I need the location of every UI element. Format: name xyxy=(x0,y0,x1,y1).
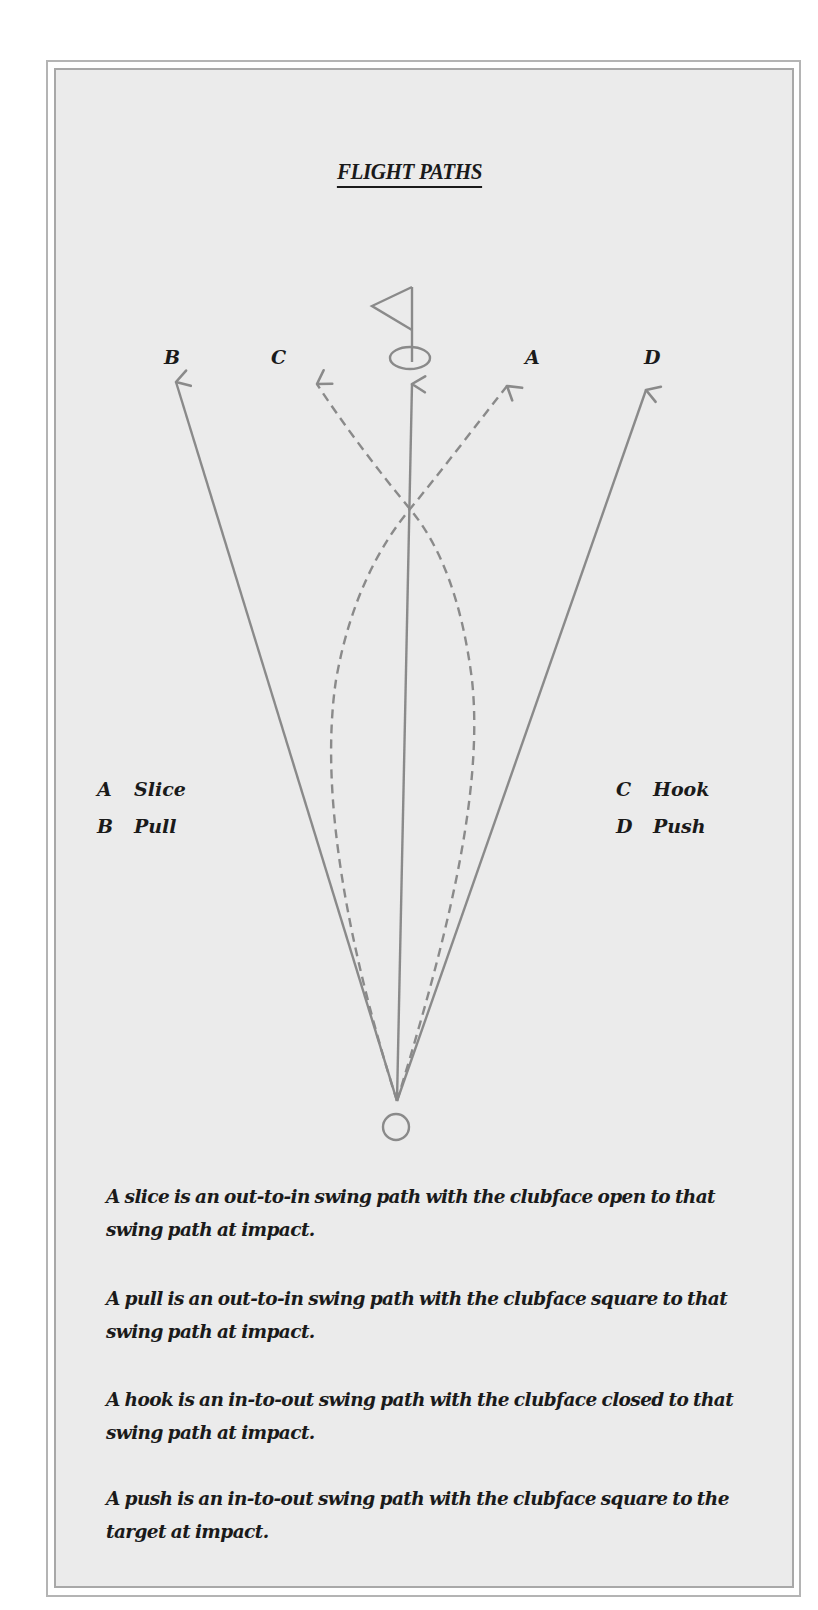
legend-label: Slice xyxy=(134,778,186,800)
description-push: A push is an in-to-out swing path with t… xyxy=(106,1482,746,1548)
path-label-b: B xyxy=(164,348,180,367)
legend-key: A xyxy=(97,780,134,799)
description-line: swing path at impact. xyxy=(106,1315,746,1348)
pull-path-b xyxy=(176,382,397,1101)
flight-paths-diagram xyxy=(0,0,818,1610)
legend-item-hook: CHook xyxy=(616,780,709,799)
push-path-d xyxy=(397,390,646,1101)
description-slice: A slice is an out-to-in swing path with … xyxy=(106,1180,746,1246)
legend-label: Hook xyxy=(653,778,709,800)
path-label-a: A xyxy=(525,348,540,367)
legend-item-pull: BPull xyxy=(97,817,177,836)
description-line: A slice is an out-to-in swing path with … xyxy=(106,1180,746,1213)
description-line: swing path at impact. xyxy=(106,1416,746,1449)
description-line: A pull is an out-to-in swing path with t… xyxy=(106,1282,746,1315)
description-line: swing path at impact. xyxy=(106,1213,746,1246)
flag-icon xyxy=(372,287,412,362)
ball-icon xyxy=(383,1114,409,1140)
description-line: A push is an in-to-out swing path with t… xyxy=(106,1482,746,1515)
legend-label: Push xyxy=(653,815,706,837)
description-line: A hook is an in-to-out swing path with t… xyxy=(106,1383,746,1416)
legend-item-push: DPush xyxy=(616,817,706,836)
hook-path-c xyxy=(317,384,474,1101)
path-label-c: C xyxy=(271,348,286,367)
description-pull: A pull is an out-to-in swing path with t… xyxy=(106,1282,746,1348)
path-label-d: D xyxy=(644,348,660,367)
legend-key: C xyxy=(616,780,653,799)
hole-icon xyxy=(390,347,430,369)
slice-path-a xyxy=(331,386,507,1101)
legend-label: Pull xyxy=(134,815,177,837)
description-hook: A hook is an in-to-out swing path with t… xyxy=(106,1383,746,1449)
straight-path xyxy=(397,384,412,1101)
legend-item-slice: ASlice xyxy=(97,780,186,799)
legend-key: B xyxy=(97,817,134,836)
description-line: target at impact. xyxy=(106,1515,746,1548)
legend-key: D xyxy=(616,817,653,836)
